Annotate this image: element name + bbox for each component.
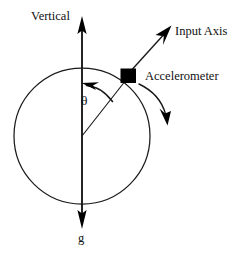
theta-angle-label: θ	[81, 94, 87, 108]
input-axis-label: Input Axis	[175, 25, 227, 38]
accelerometer-block	[121, 69, 137, 84]
vertical-axis-label: Vertical	[31, 10, 70, 23]
gravity-label: g	[78, 232, 84, 245]
radius-line	[82, 80, 126, 136]
accelerometer-diagram: Vertical Input Axis Accelerometer θ g	[0, 0, 236, 256]
diagram-canvas	[0, 0, 236, 256]
input-axis-line	[128, 31, 167, 74]
accelerometer-label: Accelerometer	[145, 70, 219, 83]
angle-arc	[87, 86, 113, 102]
rotation-arc	[139, 84, 166, 114]
